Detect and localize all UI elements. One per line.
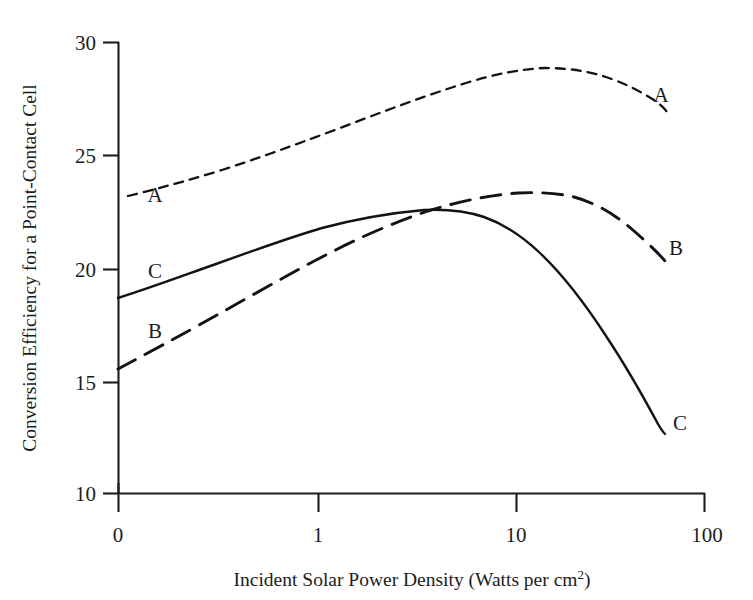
curve-label-C-right: C [673,411,687,435]
x-ticks-group [119,483,517,512]
series-C [118,210,665,434]
x-tick-label-100: 100 [691,523,723,547]
figure-container: 30 25 20 15 10 0 1 10 100 Incident Solar… [0,0,753,600]
x-tick-label-0: 0 [113,523,124,547]
curve-label-C-left: C [148,259,162,283]
y-axis-title: Conversion Efficiency for a Point-Contac… [19,84,40,452]
x-axis-title: Incident Solar Power Density (Watts per … [234,567,591,591]
curve-label-A-right: A [653,83,669,107]
series-B-line [118,193,666,369]
y-tick-label-30: 30 [75,31,96,55]
y-tick-labels: 30 25 20 15 10 [75,31,96,506]
y-tick-label-20: 20 [75,258,96,282]
curve-label-B-right: B [669,236,683,260]
axes-group [118,42,705,512]
chart-canvas: 30 25 20 15 10 0 1 10 100 Incident Solar… [0,0,753,600]
series-C-line [118,210,665,434]
series-A [128,68,667,196]
series-B [118,193,666,369]
curve-label-B-left: B [148,319,162,343]
x-tick-label-1: 1 [313,523,324,547]
y-tick-label-10: 10 [75,482,96,506]
axis-titles: Incident Solar Power Density (Watts per … [19,84,590,591]
y-ticks-group [103,43,119,494]
x-tick-labels: 0 1 10 100 [113,523,723,547]
curve-label-A-left: A [147,183,163,207]
y-tick-label-25: 25 [75,144,96,168]
x-axis-title-tail: ) [584,569,591,591]
series-A-line [128,68,667,196]
x-tick-label-10: 10 [506,523,527,547]
y-tick-label-15: 15 [75,371,96,395]
x-axis-title-main: Incident Solar Power Density (Watts per … [234,569,578,591]
